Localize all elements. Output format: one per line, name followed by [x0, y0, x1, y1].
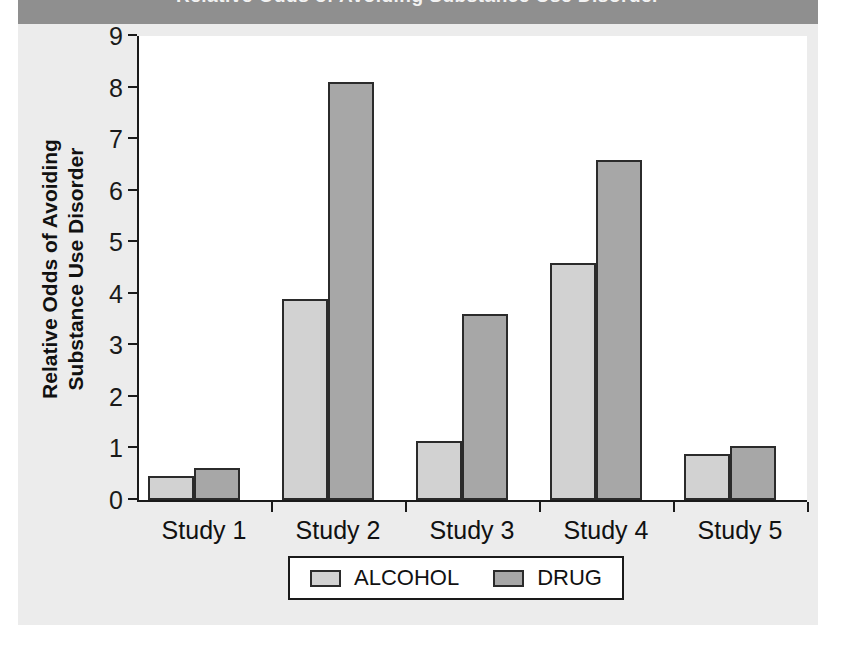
y-tick-label: 3	[109, 333, 123, 358]
legend-label-alcohol: ALCOHOL	[354, 565, 459, 591]
bar-study-1-alcohol	[148, 476, 194, 500]
y-tick-label: 6	[109, 178, 123, 203]
header-band-text: Relative Odds of Avoiding Substance Use …	[18, 0, 818, 7]
bar-study-4-drug	[596, 160, 642, 500]
plot-frame: 0123456789 Study 1Study 2Study 3Study 4S…	[137, 36, 807, 502]
legend-entry-alcohol[interactable]: ALCOHOL	[310, 565, 459, 591]
bar-study-3-drug	[462, 314, 508, 500]
x-tick-mark	[807, 502, 809, 512]
y-tick-label: 5	[109, 230, 123, 255]
y-tick-label: 0	[109, 488, 123, 513]
legend-entry-drug[interactable]: DRUG	[493, 565, 602, 591]
y-tick-mark	[128, 395, 137, 397]
y-tick-mark	[128, 86, 137, 88]
legend-swatch-drug	[493, 570, 524, 587]
y-tick-label: 4	[109, 281, 123, 306]
bar-study-3-alcohol	[416, 441, 462, 500]
y-tick-mark	[128, 34, 137, 36]
legend: ALCOHOLDRUG	[288, 556, 624, 600]
y-tick-mark	[128, 240, 137, 242]
x-axis-label-study-5: Study 5	[698, 516, 783, 545]
x-tick-mark	[539, 502, 541, 512]
y-tick-mark	[128, 343, 137, 345]
x-tick-mark	[673, 502, 675, 512]
y-tick-label: 1	[109, 436, 123, 461]
x-axis-label-study-4: Study 4	[564, 516, 649, 545]
legend-swatch-alcohol	[310, 570, 341, 587]
x-axis-label-study-3: Study 3	[430, 516, 515, 545]
x-axis-label-study-1: Study 1	[162, 516, 247, 545]
y-tick-mark	[128, 498, 137, 500]
bar-study-2-alcohol	[282, 299, 328, 500]
y-tick-label: 7	[109, 127, 123, 152]
header-band: Relative Odds of Avoiding Substance Use …	[18, 0, 818, 24]
y-tick-mark	[128, 292, 137, 294]
y-axis-line	[137, 36, 139, 502]
x-axis-line	[137, 500, 807, 502]
bar-study-2-drug	[328, 82, 374, 500]
bar-study-1-drug	[194, 468, 240, 500]
y-tick-label: 8	[109, 75, 123, 100]
y-tick-mark	[128, 137, 137, 139]
y-tick-label: 2	[109, 384, 123, 409]
y-tick-mark	[128, 446, 137, 448]
x-tick-mark	[271, 502, 273, 512]
plot-area: 0123456789 Study 1Study 2Study 3Study 4S…	[137, 36, 807, 502]
bar-study-4-alcohol	[550, 263, 596, 500]
bar-study-5-drug	[730, 446, 776, 500]
legend-label-drug: DRUG	[537, 565, 602, 591]
x-tick-mark	[405, 502, 407, 512]
y-tick-mark	[128, 189, 137, 191]
figure: Relative Odds of Avoiding Substance Use …	[0, 0, 845, 656]
y-tick-label: 9	[109, 24, 123, 49]
x-axis-label-study-2: Study 2	[296, 516, 381, 545]
bar-study-5-alcohol	[684, 454, 730, 500]
